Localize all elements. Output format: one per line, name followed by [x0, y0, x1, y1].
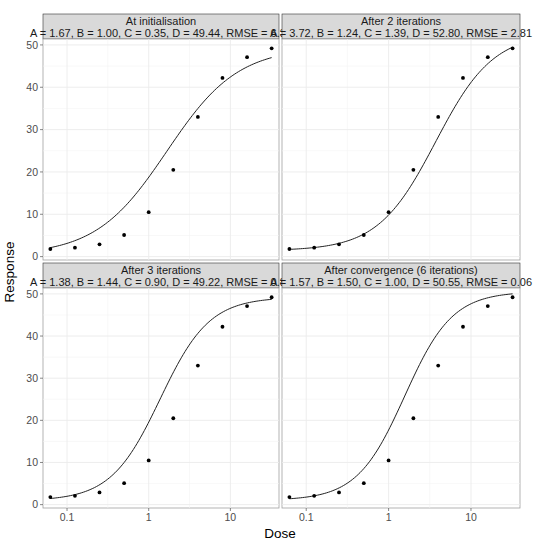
x-tick-label: 1 [386, 511, 392, 523]
y-tick-label: 40 [26, 330, 38, 342]
data-point [511, 295, 515, 299]
data-point [270, 46, 274, 50]
y-tick-label: 10 [26, 208, 38, 220]
data-point [511, 46, 515, 50]
data-point [312, 494, 316, 498]
data-point [411, 416, 415, 420]
y-axis-title: Response [2, 242, 17, 303]
data-point [245, 304, 249, 308]
panels-layer: At initialisationA = 1.67, B = 1.00, C =… [26, 14, 532, 523]
data-point [461, 76, 465, 80]
data-point [147, 458, 151, 462]
data-point [245, 55, 249, 59]
facet-params: A = 1.57, B = 1.50, C = 1.00, D = 50.55,… [270, 276, 532, 288]
facet-params: A = 1.67, B = 1.00, C = 0.35, D = 49.44,… [30, 27, 292, 39]
data-point [288, 247, 292, 251]
data-point [337, 242, 341, 246]
x-tick-label: 1 [146, 511, 152, 523]
plot-area [43, 39, 279, 260]
data-point [122, 481, 126, 485]
data-point [362, 233, 366, 237]
data-point [486, 55, 490, 59]
data-point [48, 247, 52, 251]
data-point [461, 325, 465, 329]
y-tick-label: 30 [26, 123, 38, 135]
data-point [98, 491, 102, 495]
data-point [73, 494, 77, 498]
data-point [436, 115, 440, 119]
data-point [312, 246, 316, 250]
data-point [196, 364, 200, 368]
facet-panel: After convergence (6 iterations)A = 1.57… [270, 263, 532, 523]
data-point [337, 491, 341, 495]
data-point [196, 115, 200, 119]
x-tick-label: 0.1 [299, 511, 314, 523]
plot-area [282, 288, 520, 508]
data-point [387, 210, 391, 214]
data-point [436, 364, 440, 368]
facet-title: After convergence (6 iterations) [324, 264, 477, 276]
y-tick-label: 40 [26, 81, 38, 93]
data-point [288, 495, 292, 499]
facet-panel: At initialisationA = 1.67, B = 1.00, C =… [26, 14, 292, 262]
data-point [147, 210, 151, 214]
data-point [171, 168, 175, 172]
data-point [98, 242, 102, 246]
y-tick-label: 10 [26, 456, 38, 468]
facet-title: After 2 iterations [361, 15, 442, 27]
facet-chart: At initialisationA = 1.67, B = 1.00, C =… [0, 0, 535, 546]
y-tick-label: 50 [26, 288, 38, 300]
x-axis-title: Dose [264, 526, 296, 541]
y-tick-label: 30 [26, 372, 38, 384]
data-point [270, 295, 274, 299]
facet-params: A = 1.38, B = 1.44, C = 0.90, D = 49.22,… [30, 276, 292, 288]
y-tick-label: 20 [26, 414, 38, 426]
chart-canvas: At initialisationA = 1.67, B = 1.00, C =… [0, 0, 535, 546]
data-point [486, 304, 490, 308]
x-tick-label: 10 [465, 511, 477, 523]
facet-panel: After 3 iterationsA = 1.38, B = 1.44, C … [26, 263, 292, 523]
x-tick-label: 10 [225, 511, 237, 523]
x-tick-label: 0.1 [60, 511, 75, 523]
data-point [387, 458, 391, 462]
data-point [221, 76, 225, 80]
data-point [221, 325, 225, 329]
facet-panel: After 2 iterationsA = 3.72, B = 1.24, C … [270, 14, 532, 260]
y-tick-label: 0 [32, 498, 38, 510]
data-point [73, 246, 77, 250]
data-point [171, 416, 175, 420]
data-point [122, 233, 126, 237]
y-tick-label: 50 [26, 39, 38, 51]
y-tick-label: 0 [32, 250, 38, 262]
data-point [362, 481, 366, 485]
facet-title: After 3 iterations [121, 264, 202, 276]
data-point [411, 168, 415, 172]
y-tick-label: 20 [26, 166, 38, 178]
facet-params: A = 3.72, B = 1.24, C = 1.39, D = 52.80,… [270, 27, 532, 39]
facet-title: At initialisation [126, 15, 196, 27]
data-point [48, 495, 52, 499]
plot-area [282, 39, 520, 260]
